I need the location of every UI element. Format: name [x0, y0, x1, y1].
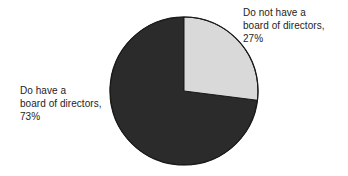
slice-label-have-board-line1: Do have a	[20, 84, 102, 97]
slice-label-have-board-line2: board of directors,	[20, 97, 102, 110]
slice-label-have-board-value: 73%	[20, 110, 102, 123]
slice-label-no-board-line2: board of directors,	[243, 19, 325, 32]
pie-chart-figure: Do not have a board of directors, 27% Do…	[0, 0, 348, 176]
slice-label-no-board: Do not have a board of directors, 27%	[243, 6, 325, 45]
slice-label-have-board: Do have a board of directors, 73%	[20, 84, 102, 123]
slice-label-no-board-line1: Do not have a	[243, 6, 325, 19]
slice-label-no-board-value: 27%	[243, 32, 325, 45]
